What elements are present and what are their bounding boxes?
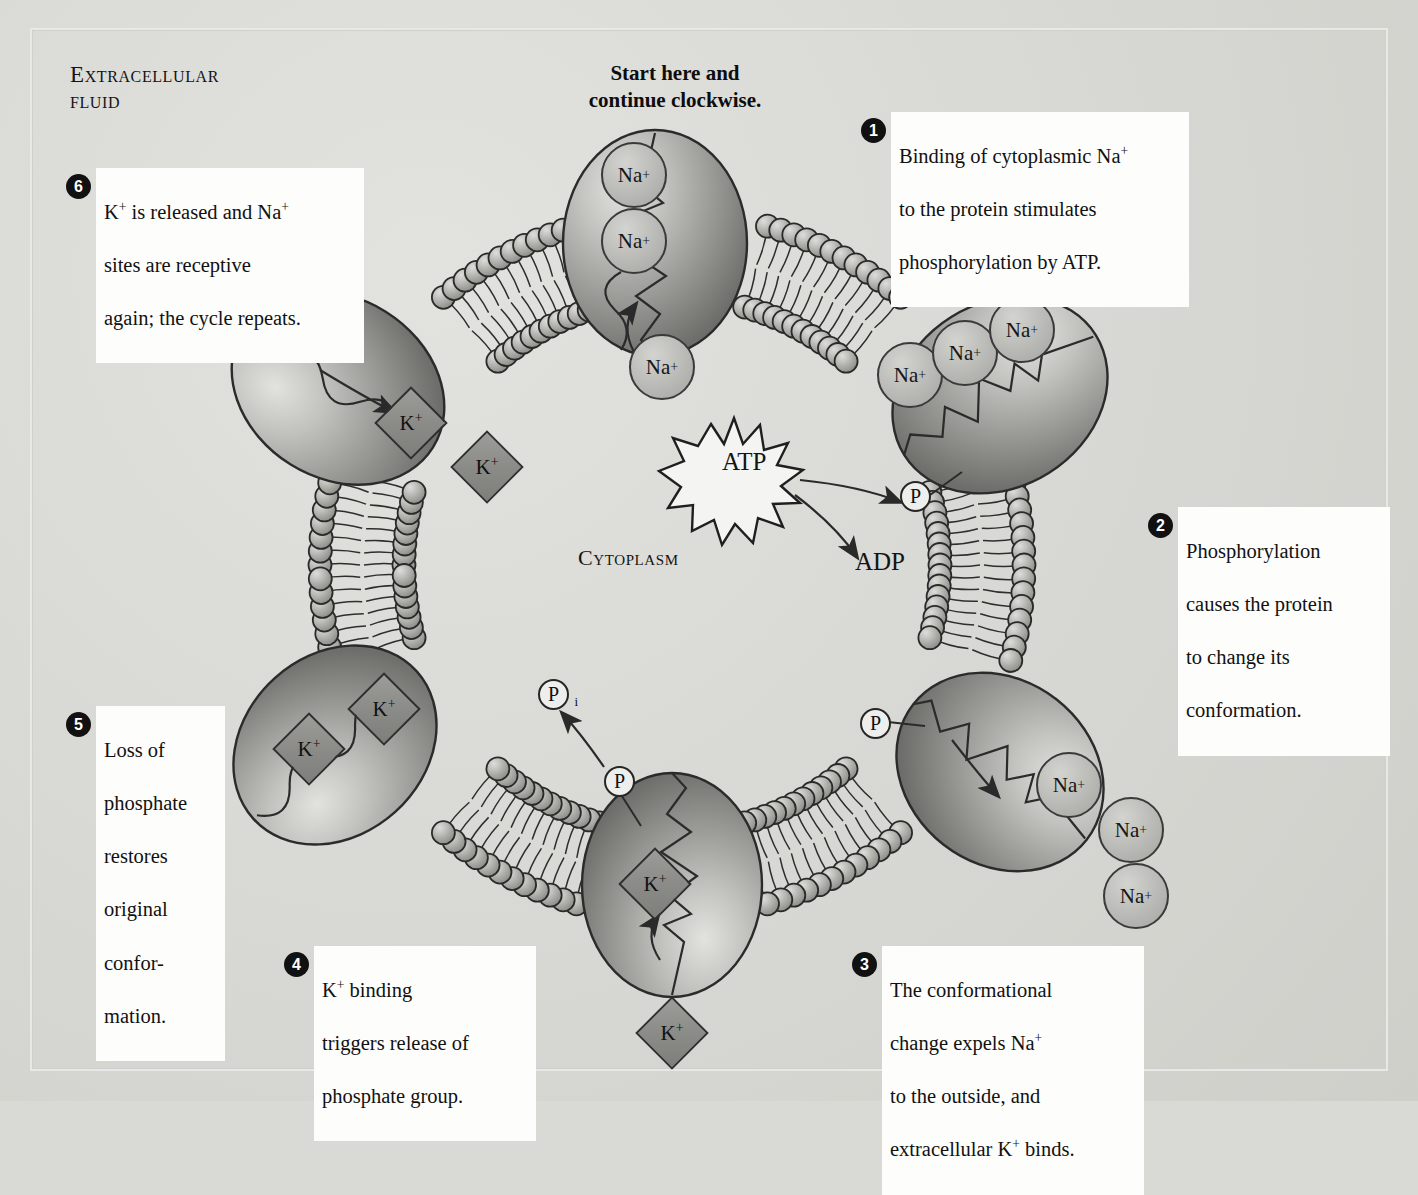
step-6-line-1: K+ is released and Na+ bbox=[104, 199, 356, 226]
step-3-line-2: change expels Na+ bbox=[890, 1030, 1136, 1057]
step-5-line-2: phosphate bbox=[104, 790, 217, 817]
step-1-line-2: to the protein stimulates bbox=[899, 196, 1181, 223]
phosphate-subscript: i bbox=[574, 694, 578, 710]
step-4-line-1: K+ binding bbox=[322, 977, 528, 1004]
atp-burst bbox=[659, 418, 803, 545]
step-1-line-3: phosphorylation by ATP. bbox=[899, 249, 1181, 276]
step-badge-1: 1 bbox=[861, 118, 886, 143]
step-5-line-4: original bbox=[104, 896, 217, 923]
step-callout-3: The conformational change expels Na+ to … bbox=[882, 946, 1144, 1195]
step-5-line-5: confor- bbox=[104, 950, 217, 977]
step-3-line-4: extracellular K+ binds. bbox=[890, 1136, 1136, 1163]
step-2-line-1: Phosphorylation bbox=[1186, 538, 1382, 565]
step-callout-2: Phosphorylation causes the protein to ch… bbox=[1178, 507, 1390, 756]
phosphate-icon-step3: P bbox=[860, 708, 891, 739]
step-badge-3: 3 bbox=[852, 952, 877, 977]
step-badge-6: 6 bbox=[66, 174, 91, 199]
step-2-line-3: to change its bbox=[1186, 644, 1382, 671]
step-4-line-3: phosphate group. bbox=[322, 1083, 528, 1110]
phosphate-release-arrow bbox=[562, 713, 604, 767]
sodium-ion: Na+ bbox=[629, 334, 695, 400]
step-badge-2: 2 bbox=[1148, 513, 1173, 538]
step-5-line-1: Loss of bbox=[104, 737, 217, 764]
sodium-ion: Na+ bbox=[601, 142, 667, 208]
cytoplasm-label: Cytoplasm bbox=[578, 545, 679, 571]
step-badge-4: 4 bbox=[284, 952, 309, 977]
step-4-line-2: triggers release of bbox=[322, 1030, 528, 1057]
extracellular-fluid-label: Extracellular fluid bbox=[70, 62, 219, 114]
atp-to-phosphate-arrow bbox=[800, 480, 900, 502]
step-callout-6: K+ is released and Na+ sites are recepti… bbox=[96, 168, 364, 363]
sodium-ion: Na+ bbox=[601, 208, 667, 274]
step-5-line-3: restores bbox=[104, 843, 217, 870]
adp-label: ADP bbox=[855, 548, 905, 576]
atp-label: ATP bbox=[722, 448, 766, 476]
sodium-ion: Na+ bbox=[1103, 863, 1169, 929]
step-badge-5: 5 bbox=[66, 712, 91, 737]
step-5-line-6: mation. bbox=[104, 1003, 217, 1030]
phosphate-icon-step2: P bbox=[900, 481, 931, 512]
sodium-ion: Na+ bbox=[1036, 752, 1102, 818]
start-here-note: Start here and continue clockwise. bbox=[565, 60, 785, 114]
step-2-line-4: conformation. bbox=[1186, 697, 1382, 724]
step-3-line-3: to the outside, and bbox=[890, 1083, 1136, 1110]
step-6-line-3: again; the cycle repeats. bbox=[104, 305, 356, 332]
step-callout-4: K+ binding triggers release of phosphate… bbox=[314, 946, 536, 1141]
step-3-line-1: The conformational bbox=[890, 977, 1136, 1004]
step-6-line-2: sites are receptive bbox=[104, 252, 356, 279]
inorganic-phosphate-icon: P i bbox=[538, 679, 569, 710]
step-callout-5: Loss of phosphate restores original conf… bbox=[96, 706, 225, 1061]
sodium-ion: Na+ bbox=[1098, 797, 1164, 863]
step-callout-1: Binding of cytoplasmic Na+ to the protei… bbox=[891, 112, 1189, 307]
step-1-line-1: Binding of cytoplasmic Na+ bbox=[899, 143, 1181, 170]
atp-to-adp-arrow bbox=[795, 495, 857, 557]
step-2-line-2: causes the protein bbox=[1186, 591, 1382, 618]
phosphate-icon-step4: P bbox=[604, 766, 635, 797]
